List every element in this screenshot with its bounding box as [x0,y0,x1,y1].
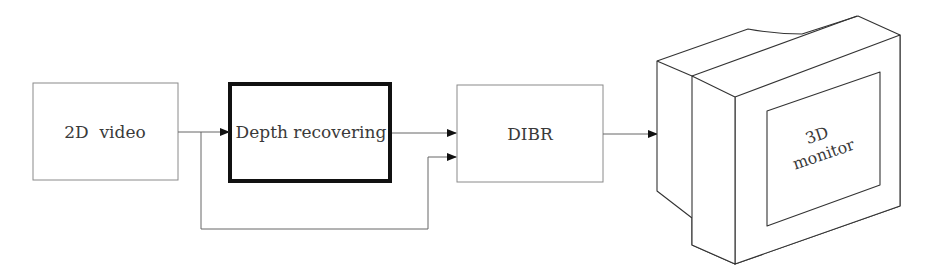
block-depth-recovering-label: Depth recovering [236,122,387,142]
diagram-canvas: 2D video Depth recovering DIBR 3D monito… [0,0,928,276]
monitor-side-face [692,76,735,264]
monitor-illustration [657,16,900,264]
block-2d-video: 2D video [33,83,178,180]
block-depth-recovering: Depth recovering [230,84,390,181]
block-2d-video-label: 2D video [64,122,145,142]
block-dibr: DIBR [457,85,603,182]
block-dibr-label: DIBR [507,124,554,144]
